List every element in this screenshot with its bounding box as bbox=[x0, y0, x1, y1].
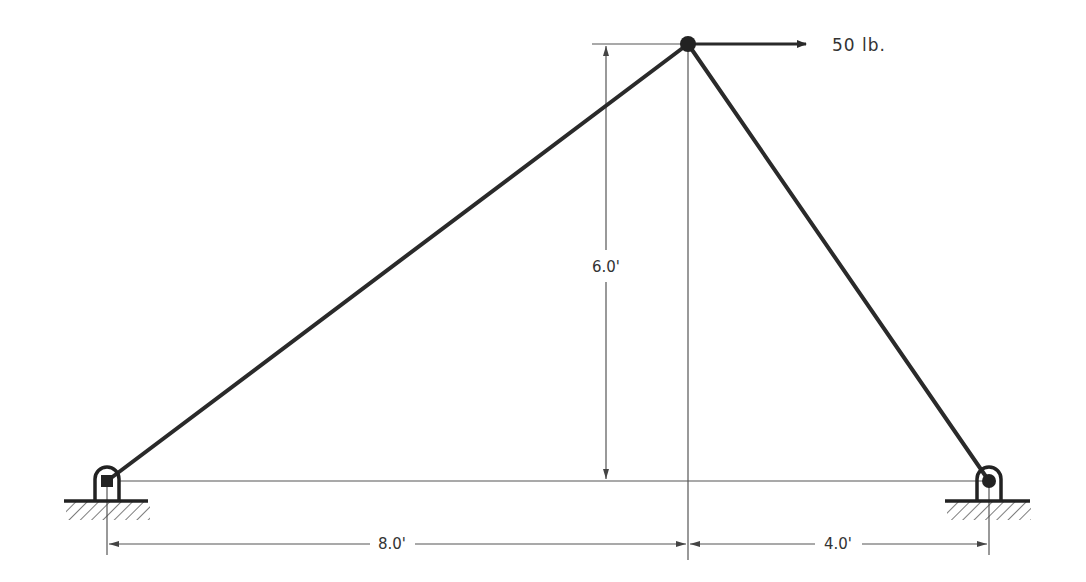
right-span-dimension: 4.0' bbox=[690, 535, 987, 553]
left-span-dimension: 8.0' bbox=[109, 535, 686, 553]
left-span-dimension-label: 8.0' bbox=[378, 535, 406, 553]
right-member bbox=[688, 44, 989, 481]
right-pin-support-icon bbox=[945, 467, 1031, 520]
height-dimension-label: 6.0' bbox=[592, 258, 620, 276]
extension-lines bbox=[107, 44, 989, 560]
truss-diagram: 6.0' 8.0' 4.0' 50 lb. bbox=[0, 0, 1086, 582]
truss-members bbox=[107, 44, 989, 481]
load-label: 50 lb. bbox=[832, 35, 886, 55]
load-arrow: 50 lb. bbox=[688, 35, 886, 55]
apex-joint-icon bbox=[680, 36, 696, 52]
right-span-dimension-label: 4.0' bbox=[824, 535, 852, 553]
